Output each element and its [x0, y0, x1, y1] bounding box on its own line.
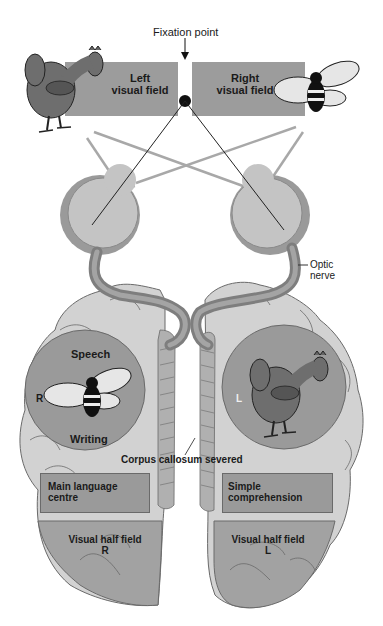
- left-field-line1: Left: [95, 72, 185, 84]
- right-visual-field-label: Right visual field: [200, 72, 290, 96]
- speech-label: Speech: [71, 348, 110, 360]
- visual-half-left-line2: R: [55, 545, 155, 556]
- arrow-down-icon: [181, 38, 189, 60]
- visual-half-right-line2: L: [218, 545, 318, 556]
- right-eye: [230, 164, 310, 255]
- right-field-line1: Right: [200, 72, 290, 84]
- optic-line2: nerve: [310, 270, 335, 281]
- main-language-centre-label: Main language centre: [48, 481, 117, 503]
- left-visual-field-label: Left visual field: [95, 72, 185, 96]
- visual-half-field-l-label: Visual half field L: [218, 534, 318, 556]
- corpus-callosum-left: [158, 330, 175, 509]
- corpus-callosum-label: Corpus callosum severed: [121, 454, 243, 465]
- visual-half-field-r-label: Visual half field R: [55, 534, 155, 556]
- optic-nerve-label: Optic nerve: [310, 259, 335, 281]
- left-circle-side-label: R: [36, 393, 43, 404]
- main-language-line2: centre: [48, 492, 117, 503]
- corpus-callosum-right: [200, 332, 215, 511]
- split-brain-diagram: Fixation point Left visual field Right v…: [0, 0, 383, 626]
- left-field-line2: visual field: [95, 84, 185, 96]
- visual-half-left-line1: Visual half field: [55, 534, 155, 545]
- writing-label: Writing: [70, 433, 108, 445]
- corpus-callosum-pointer: [185, 438, 195, 455]
- right-field-line2: visual field: [200, 84, 290, 96]
- right-circle-side-label: L: [236, 393, 242, 404]
- main-language-line1: Main language: [48, 481, 117, 492]
- simple-comp-line2: comprehension: [228, 492, 302, 503]
- optic-line1: Optic: [310, 259, 335, 270]
- diagram-canvas: [0, 0, 383, 626]
- simple-comp-line1: Simple: [228, 481, 302, 492]
- visual-half-right-line1: Visual half field: [218, 534, 318, 545]
- fixation-point-label: Fixation point: [153, 26, 218, 38]
- simple-comprehension-label: Simple comprehension: [228, 481, 302, 503]
